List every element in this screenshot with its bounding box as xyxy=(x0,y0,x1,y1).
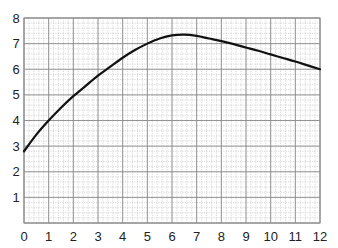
x-tick-label: 3 xyxy=(94,229,101,244)
y-tick-label: 8 xyxy=(12,11,19,26)
x-tick-label: 6 xyxy=(168,229,175,244)
y-tick-label: 3 xyxy=(12,139,19,154)
x-tick-label: 2 xyxy=(70,229,77,244)
x-tick-label: 1 xyxy=(45,229,52,244)
line-chart: 0123456789101112 12345678 xyxy=(0,0,338,248)
x-tick-label: 4 xyxy=(119,229,126,244)
x-tick-label: 9 xyxy=(242,229,249,244)
x-tick-label: 10 xyxy=(263,229,277,244)
y-tick-label: 7 xyxy=(12,36,19,51)
x-tick-label: 11 xyxy=(289,229,303,244)
x-tick-label: 12 xyxy=(313,229,327,244)
y-tick-label: 4 xyxy=(12,113,19,128)
y-tick-label: 6 xyxy=(12,62,19,77)
x-tick-label: 7 xyxy=(193,229,200,244)
y-axis-labels: 12345678 xyxy=(12,11,19,205)
y-tick-label: 2 xyxy=(12,164,19,179)
x-tick-label: 5 xyxy=(144,229,151,244)
y-tick-label: 5 xyxy=(12,87,19,102)
x-tick-label: 0 xyxy=(20,229,27,244)
x-tick-label: 8 xyxy=(218,229,225,244)
y-tick-label: 1 xyxy=(12,190,19,205)
x-axis-labels: 0123456789101112 xyxy=(20,229,327,244)
